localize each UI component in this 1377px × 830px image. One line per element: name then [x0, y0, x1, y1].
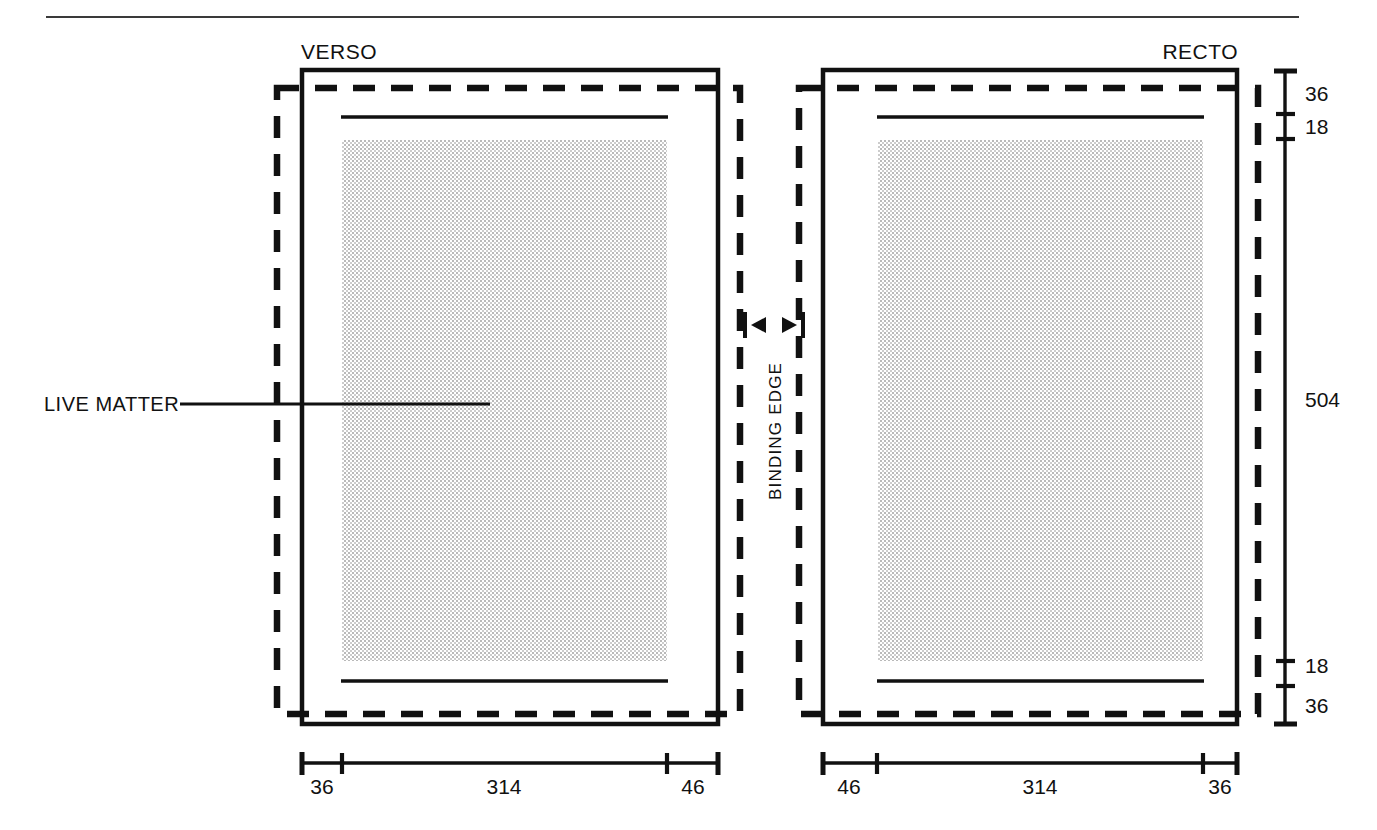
binding-right-arrow-icon	[782, 317, 797, 333]
verso-page-label: VERSO	[301, 40, 377, 63]
verso-scale-label: 314	[486, 775, 521, 798]
recto-horizontal-dimension-scale: 46 314 36	[823, 752, 1237, 798]
recto-scale-label: 46	[837, 775, 860, 798]
binding-edge-label: BINDING EDGE	[766, 362, 785, 500]
vertical-scale-label: 36	[1305, 82, 1328, 105]
binding-left-arrow-icon	[751, 317, 766, 333]
recto-page-group: RECTO	[799, 40, 1258, 724]
recto-scale-label: 314	[1022, 775, 1057, 798]
verso-live-matter-area	[342, 140, 667, 661]
live-matter-label: LIVE MATTER	[44, 393, 179, 415]
page-layout-diagram: VERSO RECTO BINDING ED	[0, 0, 1377, 830]
recto-page-label: RECTO	[1162, 40, 1238, 63]
binding-edge-group: BINDING EDGE	[745, 312, 803, 500]
vertical-scale-label: 504	[1305, 388, 1340, 411]
vertical-scale-label: 36	[1305, 694, 1328, 717]
verso-horizontal-dimension-scale: 36 314 46	[302, 752, 718, 798]
recto-scale-label: 36	[1208, 775, 1231, 798]
vertical-scale-label: 18	[1305, 654, 1328, 677]
verso-scale-label: 36	[310, 775, 333, 798]
vertical-scale-label: 18	[1305, 115, 1328, 138]
verso-scale-label: 46	[681, 775, 704, 798]
recto-live-matter-area	[878, 140, 1203, 661]
verso-page-group: VERSO	[277, 40, 740, 724]
vertical-dimension-scale: 36 18 504 18 36	[1274, 70, 1340, 725]
diagram-canvas: VERSO RECTO BINDING ED	[0, 0, 1377, 830]
